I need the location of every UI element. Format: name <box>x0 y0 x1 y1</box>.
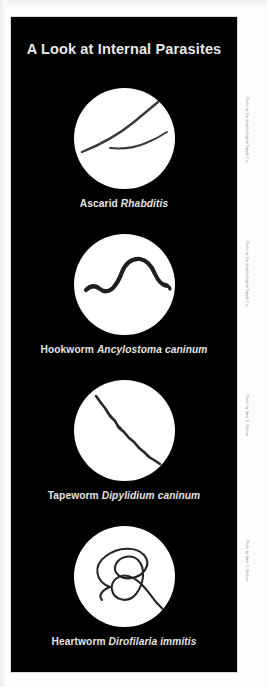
page-edge-shading-left <box>0 0 7 687</box>
tapeworm-specimen-illustration <box>74 380 175 481</box>
ascarid-specimen-illustration <box>74 88 175 189</box>
figure-caption-tapeworm: Tapeworm Dipylidium caninum <box>11 490 237 501</box>
hookworm-specimen-illustration <box>74 234 175 335</box>
figure-caption-heartworm: Heartworm Dirofilaria immitis <box>11 636 237 647</box>
page-edge-shading-top <box>0 0 267 9</box>
heartworm-specimen-illustration <box>74 526 175 627</box>
photo-credit-heartworm: Photo by Jane C. Nelson <box>245 540 248 581</box>
page-title: A Look at Internal Parasites <box>11 41 237 57</box>
scientific-name-heartworm: Dirofilaria immitis <box>109 636 197 647</box>
figure-ascarid: Ascarid Rhabditis <box>11 88 237 209</box>
figure-heartworm: Heartworm Dirofilaria immitis <box>11 526 237 647</box>
common-name-ascarid: Ascarid <box>80 198 118 209</box>
figure-caption-hookworm: Hookworm Ancylostoma caninum <box>11 344 237 355</box>
scientific-name-tapeworm: Dipylidium caninum <box>102 490 201 501</box>
common-name-heartworm: Heartworm <box>51 636 105 647</box>
specimen-photo-tapeworm <box>74 380 175 481</box>
scientific-name-ascarid: Rhabditis <box>121 198 168 209</box>
common-name-hookworm: Hookworm <box>41 344 94 355</box>
photo-credit-ascarid: Photo by Carolina Biological Supply Co. <box>245 97 248 163</box>
common-name-tapeworm: Tapeworm <box>48 490 99 501</box>
parasite-poster-panel: A Look at Internal Parasites Ascarid Rha… <box>11 17 237 672</box>
specimen-photo-hookworm <box>74 234 175 335</box>
specimen-photo-ascarid <box>74 88 175 189</box>
photo-credit-tapeworm: Photo by Jane C. Nelson <box>245 395 248 436</box>
figure-tapeworm: Tapeworm Dipylidium caninum <box>11 380 237 501</box>
scientific-name-hookworm: Ancylostoma caninum <box>97 344 208 355</box>
page-background: A Look at Internal Parasites Ascarid Rha… <box>0 0 267 687</box>
specimen-photo-heartworm <box>74 526 175 627</box>
photo-credit-hookworm: Photo by Carolina Biological Supply Co. <box>245 241 248 307</box>
figure-caption-ascarid: Ascarid Rhabditis <box>11 198 237 209</box>
figure-hookworm: Hookworm Ancylostoma caninum <box>11 234 237 355</box>
